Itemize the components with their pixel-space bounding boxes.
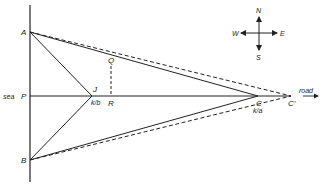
label-road: road	[299, 87, 314, 94]
label-sea: sea	[3, 93, 14, 100]
label-speed-J: k/b	[91, 99, 100, 106]
line-A-C-prime	[30, 32, 291, 96]
compass-label-W: W	[232, 30, 240, 37]
compass-rose: N S W E	[232, 7, 285, 61]
label-J: J	[92, 85, 98, 94]
compass-label-S: S	[256, 54, 261, 61]
line-A-C	[30, 32, 258, 96]
line-B-C	[30, 96, 258, 160]
label-Q: Q	[108, 56, 114, 65]
geometry-diagram: A B P J Q R C C' sea road k/b k/a N S W …	[0, 0, 328, 187]
line-A-J	[30, 32, 92, 96]
label-speed-C: k/a	[253, 107, 262, 114]
label-B: B	[21, 156, 27, 165]
line-B-J	[30, 96, 92, 160]
compass-label-N: N	[256, 7, 262, 14]
line-B-C-prime	[30, 96, 291, 160]
compass-label-E: E	[280, 30, 285, 37]
label-R: R	[108, 99, 114, 108]
label-P: P	[21, 92, 27, 101]
label-A: A	[20, 28, 26, 37]
label-C-prime: C'	[288, 99, 296, 108]
